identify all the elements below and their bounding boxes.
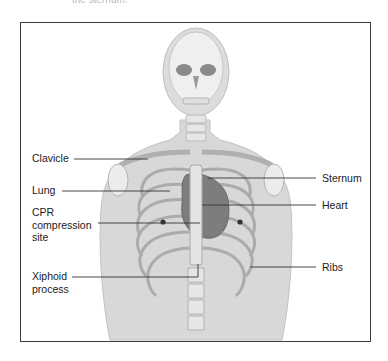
label-xiphoid-process: Xiphoid process — [32, 270, 69, 295]
cervical-spine — [186, 115, 206, 141]
skull-icon — [163, 28, 229, 116]
label-ribs: Ribs — [322, 261, 343, 274]
label-cpr-compression-site: CPR compression site — [32, 206, 92, 244]
sternum-bone — [190, 165, 202, 265]
cpr-dot-left — [160, 219, 165, 224]
label-heart: Heart — [322, 199, 348, 212]
label-sternum: Sternum — [322, 172, 362, 185]
cpr-dot-right — [237, 219, 242, 224]
shoulder-right — [264, 164, 284, 196]
label-clavicle: Clavicle — [32, 152, 69, 165]
label-lung: Lung — [32, 184, 55, 197]
